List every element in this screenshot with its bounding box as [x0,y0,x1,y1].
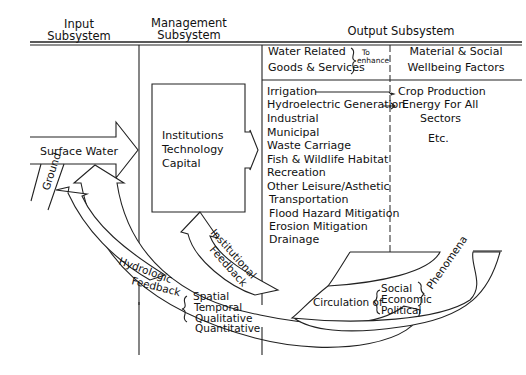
list-item: Fish & Wildlife Habitat [267,153,389,166]
svg-text:Subsystem: Subsystem [157,28,220,42]
water-resource-system-diagram: Input Subsystem Management Subsystem Out… [0,0,526,375]
list-item: Recreation [267,166,326,179]
wellbeing-header-2: Wellbeing Factors [408,61,505,74]
to-enhance-label-2: enhance [357,56,390,65]
circulation-political: Political [381,304,421,316]
circulation-prefix: Circulation of [313,296,383,308]
list-item: Erosion Mitigation [269,220,368,233]
list-item: Waste Carriage [267,139,351,152]
list-item: Drainage [269,233,319,246]
management-item-capital: Capital [162,157,201,170]
wellbeing-header-1: Material & Social [410,45,503,58]
list-item: Etc. [428,132,449,145]
list-item: Flood Hazard Mitigation [269,207,399,220]
water-uses-list: Irrigation Hydroelectric Generation Indu… [267,85,405,246]
list-item: Energy For All [402,98,478,111]
water-goods-header-2: Goods & Services [268,61,365,74]
management-item-technology: Technology [161,143,224,156]
list-item: Municipal [267,126,319,139]
management-item-institutions: Institutions [162,129,224,142]
list-item: Sectors [420,112,461,125]
svg-text:Subsystem: Subsystem [47,29,110,43]
list-item: Other Leisure/Asthetic [267,180,390,193]
list-item: Industrial [267,112,319,125]
water-goods-header-1: Water Related [268,45,346,58]
header-output-subsystem: Output Subsystem [347,24,454,38]
list-item: Hydroelectric Generation [267,98,405,111]
wellbeing-factors-list: Crop Production Energy For All Sectors E… [398,85,486,145]
list-item: Crop Production [398,85,486,98]
header-management-subsystem: Management Subsystem [151,16,227,42]
header-input-subsystem: Input Subsystem [47,17,110,43]
irrigation-arrow-icon [315,92,394,95]
list-item: Irrigation [267,85,317,98]
list-item: Transportation [268,193,348,206]
dimension-quantitative: Quantitative [195,322,260,334]
